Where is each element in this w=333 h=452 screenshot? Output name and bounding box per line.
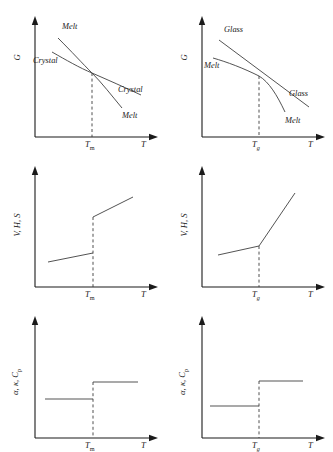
y-axis-arrow: [32, 166, 38, 175]
x-axis-arrow: [316, 134, 325, 140]
panel-bottom-left-response-crystallization: α, κ, Cp Tm T: [0, 300, 166, 450]
x-axis-label: T: [141, 441, 146, 450]
branch-melt-high: [259, 193, 295, 246]
plot-area-mid-left: [0, 150, 166, 300]
y-axis-arrow: [199, 316, 205, 325]
panel-bottom-right-response-glass: α, κ, Cp Tg T: [167, 300, 333, 450]
x-axis-arrow: [316, 435, 325, 441]
y-axis-label: V, H, S: [13, 213, 22, 236]
branch-glass-low: [218, 246, 259, 255]
panel-top-left-gibbs-crystallization: G Melt Crystal Crystal Melt Tm T: [0, 0, 166, 150]
x-axis-arrow: [149, 284, 158, 290]
curve-label-glass-upper: Glass: [224, 26, 243, 34]
y-axis-label: G: [13, 54, 22, 60]
y-axis-arrow: [199, 166, 205, 175]
x-axis-label: T: [308, 290, 313, 299]
x-axis-label: T: [141, 290, 146, 299]
x-tick-transition-sub: m: [90, 445, 95, 452]
curve-label-crystal-lower: Crystal: [118, 86, 143, 94]
panel-mid-left-extensive-crystallization: V, H, S Tm T: [0, 150, 166, 300]
y-axis-arrow: [32, 16, 38, 25]
y-axis-label: α, κ, Cp: [178, 369, 189, 395]
curve-label-melt-upper: Melt: [62, 23, 77, 31]
curve-label-melt-lower: Melt: [122, 112, 137, 120]
curve-melt: [58, 38, 122, 108]
curve-melt: [213, 58, 285, 112]
y-axis-label: G: [180, 54, 189, 60]
y-axis-label-sub: p: [15, 369, 22, 372]
y-axis-label-main: α, κ, C: [177, 372, 187, 395]
plot-area-mid-right: [167, 150, 333, 300]
x-tick-transition: Tm: [85, 441, 95, 452]
plot-area-top-left: [0, 0, 166, 150]
plot-area-top-right: [167, 0, 333, 150]
branch-crystal-low: [48, 253, 93, 262]
x-axis-label: T: [308, 140, 313, 149]
curve-label-melt-upper: Melt: [204, 62, 219, 70]
x-axis-arrow: [149, 435, 158, 441]
x-axis-arrow: [316, 284, 325, 290]
y-axis-label: α, κ, Cp: [11, 369, 22, 395]
curve-label-crystal-upper: Crystal: [33, 57, 58, 65]
plot-area-bottom-right: [167, 300, 333, 451]
branch-melt-high: [93, 197, 133, 217]
panel-mid-right-extensive-glass: V, H, S Tg T: [167, 150, 333, 300]
y-axis-label: V, H, S: [180, 213, 189, 236]
y-axis-label-main: α, κ, C: [10, 372, 20, 395]
y-axis-label-sub: p: [182, 369, 189, 372]
x-tick-transition: Tg: [252, 441, 260, 452]
curve-label-melt-lower: Melt: [285, 117, 300, 125]
y-axis-arrow: [199, 16, 205, 25]
x-tick-transition-sub: g: [257, 445, 260, 452]
y-axis-arrow: [32, 316, 38, 325]
x-axis-label: T: [308, 441, 313, 450]
panel-top-right-gibbs-glass: G Glass Melt Glass Melt Tg T: [167, 0, 333, 150]
plot-area-bottom-left: [0, 300, 166, 451]
curve-label-glass-lower: Glass: [289, 90, 308, 98]
x-axis-label: T: [141, 140, 146, 149]
x-axis-arrow: [149, 134, 158, 140]
